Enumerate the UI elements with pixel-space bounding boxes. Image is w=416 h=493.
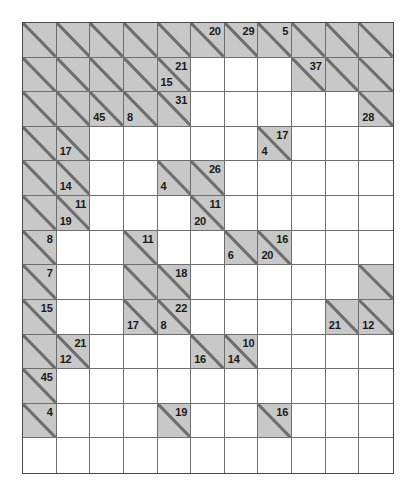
entry-cell[interactable] — [258, 58, 292, 93]
entry-cell[interactable] — [326, 196, 360, 231]
diagonal-divider-icon — [90, 58, 123, 92]
entry-cell[interactable] — [225, 404, 259, 439]
clue-cell: 4 — [23, 404, 57, 439]
clue-cell: 17 — [57, 127, 91, 162]
entry-cell[interactable] — [124, 438, 158, 473]
entry-cell[interactable] — [258, 369, 292, 404]
entry-cell[interactable] — [191, 231, 225, 266]
entry-cell[interactable] — [292, 335, 326, 370]
entry-cell[interactable] — [124, 369, 158, 404]
entry-cell[interactable] — [258, 265, 292, 300]
entry-cell[interactable] — [292, 161, 326, 196]
entry-cell[interactable] — [57, 231, 91, 266]
entry-cell[interactable] — [124, 127, 158, 162]
entry-cell[interactable] — [258, 161, 292, 196]
entry-cell[interactable] — [158, 369, 192, 404]
down-clue: 4 — [47, 407, 53, 418]
entry-cell[interactable] — [158, 438, 192, 473]
entry-cell[interactable] — [359, 369, 393, 404]
entry-cell[interactable] — [258, 92, 292, 127]
entry-cell[interactable] — [158, 335, 192, 370]
entry-cell[interactable] — [90, 265, 124, 300]
entry-cell[interactable] — [225, 438, 259, 473]
entry-cell[interactable] — [359, 196, 393, 231]
entry-cell[interactable] — [191, 369, 225, 404]
diagonal-divider-icon — [326, 23, 359, 57]
entry-cell[interactable] — [90, 196, 124, 231]
entry-cell[interactable] — [191, 92, 225, 127]
entry-cell[interactable] — [90, 300, 124, 335]
entry-cell[interactable] — [225, 161, 259, 196]
entry-cell[interactable] — [225, 92, 259, 127]
kakuro-grid-container: 2029515213745831281741714426191120118116… — [22, 22, 394, 474]
entry-cell[interactable] — [359, 127, 393, 162]
entry-cell[interactable] — [359, 335, 393, 370]
entry-cell[interactable] — [292, 369, 326, 404]
entry-cell[interactable] — [292, 404, 326, 439]
entry-cell[interactable] — [292, 438, 326, 473]
clue-cell: 16 — [258, 404, 292, 439]
entry-cell[interactable] — [292, 265, 326, 300]
entry-cell[interactable] — [326, 335, 360, 370]
entry-cell[interactable] — [158, 231, 192, 266]
entry-cell[interactable] — [57, 438, 91, 473]
entry-cell[interactable] — [258, 300, 292, 335]
entry-cell[interactable] — [225, 196, 259, 231]
entry-cell[interactable] — [326, 265, 360, 300]
entry-cell[interactable] — [158, 196, 192, 231]
clue-cell: 5 — [258, 23, 292, 58]
entry-cell[interactable] — [57, 369, 91, 404]
entry-cell[interactable] — [326, 127, 360, 162]
entry-cell[interactable] — [23, 438, 57, 473]
entry-cell[interactable] — [225, 300, 259, 335]
kakuro-grid[interactable]: 2029515213745831281741714426191120118116… — [23, 23, 393, 473]
entry-cell[interactable] — [124, 161, 158, 196]
entry-cell[interactable] — [326, 161, 360, 196]
entry-cell[interactable] — [326, 438, 360, 473]
entry-cell[interactable] — [90, 231, 124, 266]
entry-cell[interactable] — [90, 127, 124, 162]
entry-cell[interactable] — [292, 300, 326, 335]
entry-cell[interactable] — [359, 438, 393, 473]
clue-cell: 37 — [292, 58, 326, 93]
entry-cell[interactable] — [225, 58, 259, 93]
entry-cell[interactable] — [158, 127, 192, 162]
entry-cell[interactable] — [258, 196, 292, 231]
entry-cell[interactable] — [326, 404, 360, 439]
entry-cell[interactable] — [225, 369, 259, 404]
entry-cell[interactable] — [124, 335, 158, 370]
entry-cell[interactable] — [124, 196, 158, 231]
diagonal-divider-icon — [23, 161, 56, 195]
entry-cell[interactable] — [57, 265, 91, 300]
entry-cell[interactable] — [191, 58, 225, 93]
entry-cell[interactable] — [359, 404, 393, 439]
entry-cell[interactable] — [326, 231, 360, 266]
entry-cell[interactable] — [191, 404, 225, 439]
entry-cell[interactable] — [326, 92, 360, 127]
entry-cell[interactable] — [292, 127, 326, 162]
entry-cell[interactable] — [124, 404, 158, 439]
entry-cell[interactable] — [292, 231, 326, 266]
entry-cell[interactable] — [292, 196, 326, 231]
entry-cell[interactable] — [191, 265, 225, 300]
entry-cell[interactable] — [359, 161, 393, 196]
clue-cell: 14 — [57, 161, 91, 196]
entry-cell[interactable] — [90, 161, 124, 196]
entry-cell[interactable] — [326, 369, 360, 404]
entry-cell[interactable] — [225, 127, 259, 162]
entry-cell[interactable] — [90, 404, 124, 439]
entry-cell[interactable] — [258, 438, 292, 473]
entry-cell[interactable] — [225, 265, 259, 300]
entry-cell[interactable] — [90, 335, 124, 370]
entry-cell[interactable] — [292, 92, 326, 127]
entry-cell[interactable] — [57, 300, 91, 335]
entry-cell[interactable] — [258, 335, 292, 370]
entry-cell[interactable] — [57, 404, 91, 439]
diagonal-divider-icon — [359, 23, 393, 57]
entry-cell[interactable] — [90, 369, 124, 404]
entry-cell[interactable] — [359, 231, 393, 266]
entry-cell[interactable] — [191, 438, 225, 473]
entry-cell[interactable] — [90, 438, 124, 473]
entry-cell[interactable] — [191, 127, 225, 162]
entry-cell[interactable] — [191, 300, 225, 335]
